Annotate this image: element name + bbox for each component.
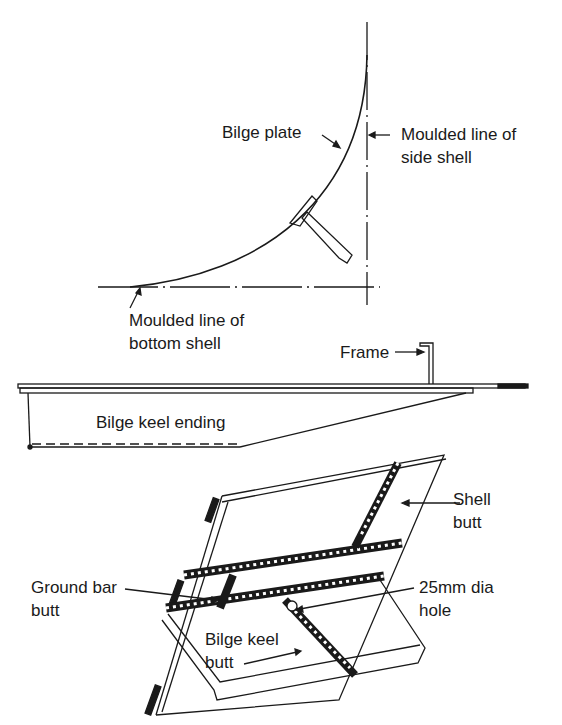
diagram-canvas [0, 0, 562, 725]
arrowhead-icon [136, 288, 141, 295]
shell-butt-label-line2: butt [453, 512, 481, 533]
drain-hole [287, 601, 297, 611]
bilge-keel-butts-panel [125, 455, 460, 715]
side-shell-label-line2: side shell [401, 147, 472, 168]
ground-bar [290, 196, 317, 226]
bilge-keel-bulb [302, 212, 352, 263]
bilge-plate-curve [130, 55, 367, 287]
upper-weld-strip [184, 543, 402, 575]
bilge-keel-ending-label: Bilge keel ending [96, 412, 225, 433]
bilge-keel-butt-label-line2: butt [205, 652, 233, 673]
bilge-keel-ending-panel [18, 343, 528, 449]
bottom-shell-label-line2: bottom shell [129, 333, 221, 354]
plate-edge-black [498, 384, 528, 388]
lower-weld-strip [166, 576, 384, 608]
arrowhead-icon [402, 500, 409, 506]
side-shell-label-line1: Moulded line of [401, 124, 516, 145]
arrowhead-icon [417, 349, 424, 355]
arrowhead-icon [369, 132, 375, 138]
frame-profile [420, 343, 433, 384]
ground-bar-strip [20, 388, 473, 393]
bottom-shell-label-line1: Moulded line of [129, 310, 244, 331]
bilge-section-panel [98, 22, 390, 308]
left-edge-black [205, 498, 219, 523]
bilge-keel-butt-label-line1: Bilge keel [205, 629, 279, 650]
ground-bar-label-line2: butt [31, 600, 59, 621]
keel-end-line [28, 393, 30, 447]
bilge-plate-label: Bilge plate [222, 122, 301, 143]
keel-end-dot [28, 445, 32, 449]
arrowhead-icon [295, 649, 301, 655]
ground-bar-leader [125, 589, 215, 600]
keel-taper-line [240, 393, 466, 447]
shell-butt-label-line1: Shell [453, 489, 491, 510]
shell-plate-edge [222, 459, 446, 502]
hole-label-line2: hole [419, 600, 451, 621]
left-edge-black [145, 685, 161, 715]
arrowhead-icon [333, 141, 340, 148]
hole-label-line1: 25mm dia [419, 577, 494, 598]
bilge-keel-butt-leader [244, 652, 297, 664]
ground-bar-label-line1: Ground bar [31, 577, 117, 598]
frame-label: Frame [340, 342, 389, 363]
